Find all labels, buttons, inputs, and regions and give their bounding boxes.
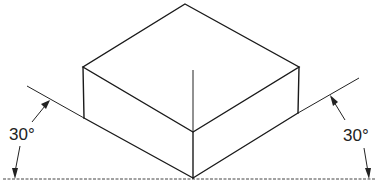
left-angle-dimension: 30° (9, 100, 50, 179)
right-angle-dimension: 30° (330, 95, 371, 179)
right-angle-label: 30° (343, 126, 369, 145)
box-left-bottom-edge (84, 118, 193, 178)
box-top-face (83, 4, 299, 132)
right-lower-arrowhead-icon (365, 168, 371, 179)
left-lower-arrowhead-icon (12, 168, 18, 179)
left-angle-label: 30° (9, 125, 35, 144)
isometric-diagram: 30° 30° (0, 0, 379, 192)
right-30-degree-line (298, 78, 359, 113)
box-right-vertical-edge (298, 67, 299, 113)
box-left-vertical-edge (83, 67, 84, 118)
right-upper-arrowhead-icon (330, 95, 338, 106)
left-30-degree-line (27, 86, 84, 118)
left-upper-arrowhead-icon (41, 100, 50, 109)
